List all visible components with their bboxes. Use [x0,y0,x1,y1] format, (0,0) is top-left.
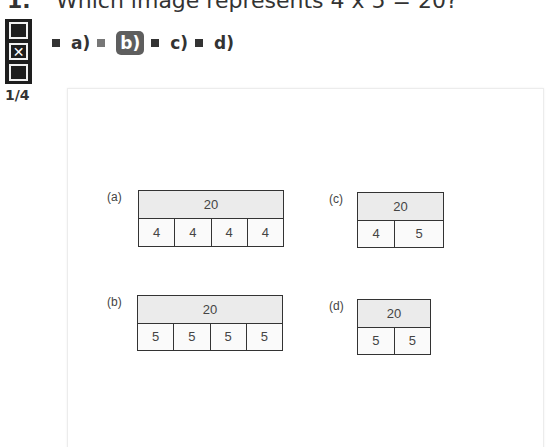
option-a-label[interactable]: a) [71,31,90,55]
question-navigator: ✕ [5,19,32,84]
diagram-c-part: 4 [358,221,395,248]
diagram-b-part: 5 [138,324,174,351]
option-c[interactable]: c) [151,31,188,55]
diagram-a-part: 4 [248,219,283,246]
bullet-square-icon [151,39,159,47]
option-b[interactable]: b) [97,31,144,55]
diagram-b-part: 5 [211,324,247,351]
option-a[interactable]: a) [52,31,90,55]
diagram-d-parts: 5 5 [358,328,430,355]
diagram-a-part: 4 [139,219,175,246]
diagram-c-part: 5 [395,221,443,248]
diagram-c-bar: 20 4 5 [357,192,444,248]
question-text: Which image represents 4 x 5 = 20? [56,0,458,13]
diagram-d-total: 20 [358,300,430,328]
diagram-a-total: 20 [139,191,283,219]
question-number: 1. [7,0,31,13]
diagram-d-label: (d) [329,299,344,313]
option-b-label-selected[interactable]: b) [116,31,144,55]
diagram-d-part: 5 [358,328,395,355]
bullet-square-icon [52,39,60,47]
bullet-square-icon [195,39,203,47]
diagram-a-part: 4 [175,219,211,246]
page-indicator: 1/4 [5,87,30,103]
nav-box-2-checked[interactable]: ✕ [9,43,28,60]
answer-options: a) b) c) d) [52,31,241,55]
diagram-a-bar: 20 4 4 4 4 [138,190,284,247]
diagram-b-part: 5 [247,324,282,351]
diagram-c-label: (c) [329,192,343,206]
diagram-b-parts: 5 5 5 5 [138,324,282,351]
quiz-question-screen: 1. Which image represents 4 x 5 = 20? ✕ … [0,0,548,447]
nav-box-3[interactable] [9,64,28,81]
diagram-c-parts: 4 5 [358,221,443,248]
diagram-b-label: (b) [107,295,122,309]
diagram-c-total: 20 [358,193,443,221]
option-c-label[interactable]: c) [170,31,188,55]
figure-panel: (a) 20 4 4 4 4 (b) 20 5 5 5 5 (c) 20 [67,88,544,447]
diagram-b-bar: 20 5 5 5 5 [137,295,283,351]
option-d[interactable]: d) [195,31,234,55]
diagram-a-parts: 4 4 4 4 [139,219,283,246]
diagram-a-label: (a) [107,190,122,204]
diagram-b-total: 20 [138,296,282,324]
option-d-label[interactable]: d) [214,31,234,55]
diagram-d-bar: 20 5 5 [357,299,431,355]
nav-box-1[interactable] [9,22,28,39]
close-x-icon: ✕ [13,45,25,59]
diagram-a-part: 4 [212,219,248,246]
bullet-square-icon [97,39,105,47]
diagram-b-part: 5 [174,324,210,351]
diagram-d-part: 5 [395,328,431,355]
